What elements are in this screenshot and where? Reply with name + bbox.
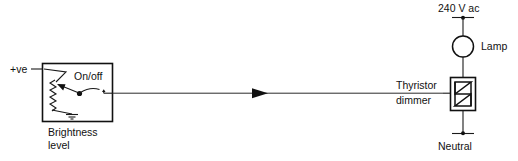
on-off-switch-blade [81,89,100,93]
thyristor-label-line2: dimmer [396,94,432,106]
neutral-terminal-node [461,131,465,135]
signal-direction-arrow-icon [252,88,268,98]
potentiometer-resistor-zigzag [50,80,56,111]
brightness-label-line1: Brightness [48,126,98,138]
power-branch-group [443,16,476,135]
lamp-symbol [453,36,474,57]
neutral-label: Neutral [438,140,472,152]
brightness-label-line2: level [48,139,70,151]
thyristor-label-line1: Thyristor [396,79,437,91]
potentiometer-bottom-lead [52,110,72,114]
ground-icon [66,115,78,120]
triac-icon [455,82,471,106]
circuit-schematic-svg: +ve On/off Brightness level 240 V ac Lam… [0,0,518,161]
on-off-label: On/off [74,70,102,82]
on-off-switch-contact [102,89,106,92]
circuit-diagram: +ve On/off Brightness level 240 V ac Lam… [0,0,518,161]
lamp-label: Lamp [481,40,507,52]
positive-supply-label: +ve [10,63,27,75]
mains-supply-label: 240 V ac [438,2,479,14]
potentiometer-wiper-arrow [57,84,79,93]
signal-wire-group [113,88,444,98]
